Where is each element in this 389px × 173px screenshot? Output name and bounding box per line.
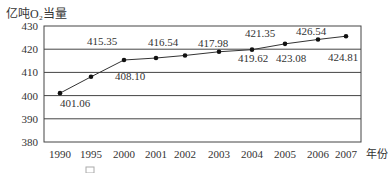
- y-tick-label: 390: [22, 113, 39, 125]
- data-point: [344, 34, 349, 39]
- x-axis-label: 年份: [366, 147, 388, 160]
- data-point: [154, 56, 159, 61]
- data-label: 416.54: [148, 36, 179, 48]
- y-tick-label: 380: [22, 136, 39, 148]
- y-tick-label: 400: [22, 90, 39, 102]
- data-point: [122, 58, 127, 63]
- x-tick-label: 2005: [274, 148, 297, 160]
- data-point: [283, 42, 288, 47]
- x-tick-label: 1990: [49, 148, 72, 160]
- y-tick-label: 410: [22, 66, 39, 78]
- x-tick-label: 2001: [145, 148, 167, 160]
- y-axis-label: 亿吨O₂当量: [6, 6, 67, 21]
- x-tick-label: 2007: [335, 148, 358, 160]
- data-point: [316, 37, 321, 42]
- caption-partial: [86, 167, 94, 173]
- data-point: [89, 75, 94, 80]
- data-label: 401.06: [60, 97, 91, 109]
- data-label: 424.81: [328, 51, 358, 63]
- data-point: [217, 49, 222, 54]
- data-label: 408.10: [115, 70, 146, 82]
- x-tick-label: 2000: [113, 148, 136, 160]
- data-label: 426.54: [296, 25, 327, 37]
- data-label: 419.62: [238, 52, 268, 64]
- data-label: 415.35: [87, 35, 118, 47]
- data-label: 421.35: [245, 27, 276, 39]
- data-label: 417.98: [198, 37, 229, 49]
- x-tick-label: 1995: [80, 148, 103, 160]
- y-tick-label: 420: [22, 43, 39, 55]
- x-tick-label: 2006: [307, 148, 330, 160]
- line-chart: 380390400410420430亿吨O₂当量1990199520002001…: [0, 0, 389, 173]
- x-tick-label: 2004: [241, 148, 264, 160]
- x-tick-label: 2003: [208, 148, 231, 160]
- data-point: [183, 53, 188, 58]
- x-tick-label: 2002: [174, 148, 196, 160]
- y-tick-label: 430: [22, 20, 39, 32]
- data-label: 423.08: [276, 52, 307, 64]
- data-point: [58, 91, 63, 96]
